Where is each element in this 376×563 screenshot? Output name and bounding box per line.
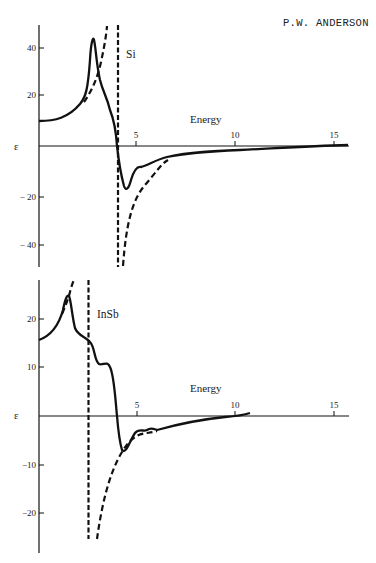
x-axis-label: Energy (190, 382, 222, 394)
x-tick-label: 5 (135, 400, 140, 410)
x-tick-label: 5 (134, 130, 139, 140)
y-tick-label: −10 (22, 460, 37, 470)
x-tick-label: 15 (330, 400, 340, 410)
x-tick-label: 15 (330, 130, 340, 140)
chart-insb: 20 10 −10 −20 ε 5 10 15 Energy InSb (14, 280, 349, 553)
x-tick-label: 10 (231, 400, 241, 410)
chart-si: 40 20 − 20 − 40 ε 5 10 15 Energy Si (14, 25, 349, 267)
y-axis-label: ε (14, 140, 19, 152)
y-tick-label: 20 (27, 90, 37, 100)
y-tick-label: − 20 (20, 192, 37, 202)
y-tick-label: 20 (27, 314, 37, 324)
figure-canvas: 40 20 − 20 − 40 ε 5 10 15 Energy Si 20 1… (0, 0, 376, 563)
y-tick-label: −20 (22, 508, 37, 518)
material-label: Si (126, 48, 136, 60)
model-curve-lower (123, 160, 168, 266)
y-tick-label: − 40 (20, 240, 37, 250)
x-axis-label: Energy (190, 113, 222, 125)
y-axis-label: ε (14, 409, 19, 421)
material-label: InSb (97, 308, 119, 320)
measured-curve (39, 296, 250, 451)
x-tick-label: 10 (231, 130, 241, 140)
y-tick-label: 40 (27, 43, 37, 53)
y-tick-label: 10 (27, 362, 37, 372)
